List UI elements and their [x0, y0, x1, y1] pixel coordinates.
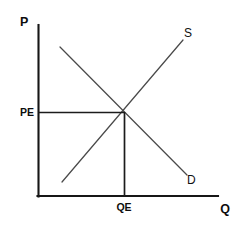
quantity-equilibrium-tick-label: QE: [116, 201, 131, 213]
price-equilibrium-tick-label: PE: [20, 106, 34, 118]
supply-curve-label: S: [184, 26, 192, 40]
supply-demand-chart: P Q S D PE QE: [0, 0, 241, 227]
demand-curve-label: D: [187, 173, 196, 187]
chart-canvas: P Q S D PE QE: [0, 0, 241, 227]
price-axis-label: P: [20, 15, 28, 29]
quantity-axis-label: Q: [220, 202, 230, 216]
